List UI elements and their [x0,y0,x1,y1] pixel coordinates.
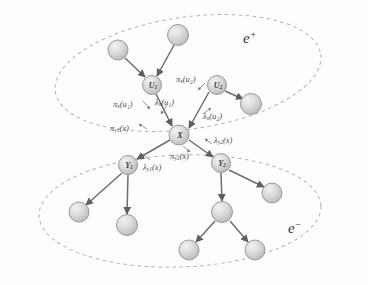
region-label-e-minus: e− [288,220,301,236]
node-p3[interactable] [241,94,262,115]
msg-arrow-pi-y1-x [139,124,147,129]
message-label-lambda-x-u2: λx(u₂) [203,112,222,121]
node-c5[interactable] [179,240,199,260]
edge-c4-c6 [230,221,248,242]
edge-p1-u1 [125,58,145,77]
node-c1[interactable] [69,202,89,222]
edge-u2-p3 [225,91,243,99]
diagram-svg [0,0,368,285]
msg-arrow-pi-x-u1 [143,101,150,109]
figure-canvas: U1 U2 X Y1 Y2 πx(u₁) λx(u₁) πx(u₂) λx(u₂… [0,0,368,285]
edge-p2-u1 [157,45,174,76]
graph-nodes [69,25,282,261]
edge-c4-c5 [196,221,215,242]
node-u2[interactable] [208,76,227,95]
message-label-pi-x-u2: πx(u₂) [176,75,196,84]
edge-y2-c4 [221,173,222,201]
message-label-lambda-x-u1: λx(u₁) [155,98,174,107]
message-label-pi-y1-x: πy1(x) [110,124,129,133]
region-label-e-plus: e+ [243,30,256,46]
node-y1[interactable] [119,156,138,175]
message-label-lambda-y2-x: λy2(x) [214,136,232,145]
node-x[interactable] [169,125,189,145]
message-label-pi-x-u1: πx(u₁) [113,100,133,109]
node-p2[interactable] [168,25,189,46]
edge-y1-c1 [86,173,122,205]
message-label-pi-y2-x: πy2(x) [170,152,189,161]
message-label-lambda-y1-x: λy1(x) [143,163,161,172]
node-c3[interactable] [262,183,282,203]
edge-y2-c3 [229,170,264,187]
node-c2[interactable] [117,215,138,236]
msg-arrow-pi-x-u2 [198,83,205,90]
edge-u2-x [189,92,209,128]
node-c4[interactable] [212,202,233,223]
node-y2[interactable] [212,154,231,173]
edge-y1-c2 [127,175,128,214]
msg-arrow-lam-y2-x [205,139,212,144]
node-p1[interactable] [108,40,128,60]
node-u1[interactable] [143,76,162,95]
edge-x-y1 [137,140,170,159]
node-c6[interactable] [245,240,265,260]
